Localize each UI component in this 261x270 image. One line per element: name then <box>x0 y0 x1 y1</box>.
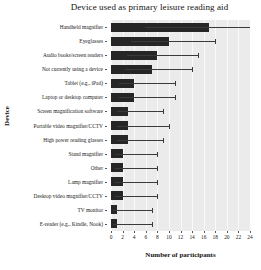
error-bar-line <box>127 55 198 56</box>
error-bar-cap <box>157 180 158 185</box>
chart-title: Device used as primary leisure reading a… <box>0 2 261 12</box>
x-axis-tick <box>146 231 147 233</box>
error-bar-line <box>119 83 175 84</box>
y-axis-tick-label: Portable video magnifier/CCTV <box>34 123 103 129</box>
error-bar-cap <box>152 222 153 227</box>
y-axis-tick <box>105 55 107 56</box>
x-axis: 024681012141618202224 <box>111 231 250 247</box>
x-axis-tick <box>192 231 193 233</box>
error-bar-line <box>113 224 152 225</box>
x-axis-tick-label: 2 <box>117 234 129 240</box>
error-bar-line <box>115 168 157 169</box>
error-bar-cap <box>157 194 158 199</box>
y-axis-tick-label: TV monitor <box>77 207 103 213</box>
y-axis-tick <box>105 182 107 183</box>
y-axis-tick <box>105 196 107 197</box>
x-axis-tick-label: 0 <box>105 234 117 240</box>
chart-figure: Device used as primary leisure reading a… <box>0 0 261 270</box>
error-bar-line <box>119 97 175 98</box>
x-axis-tick <box>111 231 112 233</box>
error-bar-cap <box>152 208 153 213</box>
error-bar-cap <box>157 166 158 171</box>
bar-series <box>111 20 250 231</box>
y-axis-tick-label: E-reader (e.g., Kindle, Nook) <box>40 221 103 227</box>
y-axis-tick <box>105 69 107 70</box>
error-bar-cap <box>169 124 170 129</box>
x-axis-tick-label: 4 <box>128 234 140 240</box>
y-axis-tick-label: Screen magnification software <box>37 108 103 114</box>
x-axis-tick <box>134 231 135 233</box>
y-axis-tick-label: Not currently using a device <box>42 66 103 72</box>
y-axis-tick <box>105 97 107 98</box>
error-bar-line <box>115 154 157 155</box>
y-axis-tick-label: Other <box>91 165 103 171</box>
error-bar-line <box>113 210 152 211</box>
error-bar-line <box>131 41 215 42</box>
y-axis-tick-label: Laptop or desktop computer <box>42 94 103 100</box>
x-axis-tick <box>123 231 124 233</box>
error-bar-cap <box>163 109 164 114</box>
x-axis-tick-label: 8 <box>151 234 163 240</box>
y-axis-tick <box>105 111 107 112</box>
y-axis-tick <box>105 140 107 141</box>
error-bar-cap <box>198 53 199 58</box>
error-bar-cap <box>175 95 176 100</box>
y-axis-tick-labels: Handheld magnifierEyeglassesAudio books/… <box>0 20 107 231</box>
error-bar-line <box>125 69 192 70</box>
x-axis-tick-label: 6 <box>140 234 152 240</box>
x-axis-tick <box>169 231 170 233</box>
error-bar-cap <box>163 138 164 143</box>
y-axis-tick <box>105 27 107 28</box>
x-axis-tick-label: 14 <box>186 234 198 240</box>
y-axis-tick <box>105 154 107 155</box>
y-axis-tick-label: Tablet (e.g., iPad) <box>65 80 103 86</box>
y-axis-tick-label: Audio books/screen readers <box>43 52 103 58</box>
error-bar-cap <box>215 39 216 44</box>
x-axis-tick <box>227 231 228 233</box>
y-axis-tick <box>105 126 107 127</box>
x-axis-tick-label: 12 <box>175 234 187 240</box>
error-bar-line <box>117 140 163 141</box>
y-axis-tick-label: Eyeglasses <box>79 38 103 44</box>
y-axis-tick <box>105 224 107 225</box>
y-axis-tick <box>105 210 107 211</box>
error-bar-line <box>115 196 157 197</box>
y-axis-tick-label: Lamp magnifier <box>68 179 103 185</box>
x-axis-tick <box>215 231 216 233</box>
error-bar-line <box>115 182 157 183</box>
x-axis-tick-label: 20 <box>221 234 233 240</box>
x-axis-tick <box>157 231 158 233</box>
error-bar-cap <box>192 67 193 72</box>
plot-area <box>111 20 250 231</box>
x-axis-tick-label: 18 <box>209 234 221 240</box>
y-axis-tick <box>105 168 107 169</box>
x-axis-tick-label: 24 <box>244 234 256 240</box>
x-axis-tick-label: 10 <box>163 234 175 240</box>
y-axis-tick-label: High power reading glasses <box>43 137 103 143</box>
x-axis-tick-label: 22 <box>232 234 244 240</box>
x-axis-tick <box>238 231 239 233</box>
x-axis-tick <box>204 231 205 233</box>
error-bar-line <box>117 126 169 127</box>
y-axis-tick-label: Desktop video magnifier/CCTV <box>34 193 103 199</box>
x-axis-tick-label: 16 <box>198 234 210 240</box>
y-axis-tick <box>105 41 107 42</box>
y-axis-tick-label: Stand magnifier <box>68 151 103 157</box>
x-axis-tick <box>250 231 251 233</box>
error-bar-line <box>117 111 163 112</box>
x-axis-tick <box>181 231 182 233</box>
error-bar-cap <box>157 152 158 157</box>
y-axis-tick-label: Handheld magnifier <box>60 24 103 30</box>
error-bar-line <box>145 27 250 28</box>
y-axis-tick <box>105 83 107 84</box>
x-axis-title: Number of participants <box>111 251 250 259</box>
error-bar-cap <box>175 81 176 86</box>
